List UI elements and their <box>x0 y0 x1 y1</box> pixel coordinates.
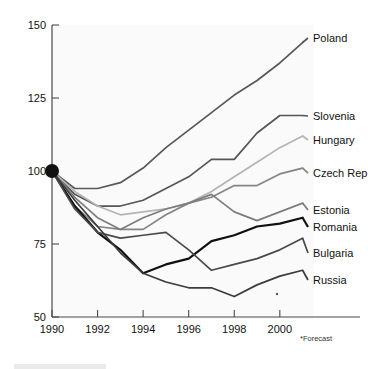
y-tick-label-150: 150 <box>28 19 46 31</box>
line-chart: 5075100125150 199019921994199619982000 P… <box>0 0 368 369</box>
series-label-russia: Russia <box>313 274 348 286</box>
y-tick-label-50: 50 <box>34 311 46 323</box>
series-label-czech-rep: Czech Rep <box>313 167 367 179</box>
series-label-romania: Romania <box>313 221 358 233</box>
y-tick-label-75: 75 <box>34 238 46 250</box>
series-label-slovenia: Slovenia <box>313 110 356 122</box>
series-label-poland: Poland <box>313 32 347 44</box>
series-label-bulgaria: Bulgaria <box>313 247 354 259</box>
forecast-footnote: *Forecast <box>300 334 333 343</box>
x-tick-label-1994: 1994 <box>131 323 155 335</box>
series-label-hungary: Hungary <box>313 134 355 146</box>
figure-root: 5075100125150 199019921994199619982000 P… <box>0 0 368 369</box>
series-label-estonia: Estonia <box>313 204 351 216</box>
origin-marker <box>45 164 59 178</box>
forecast-asterisk-dot <box>276 293 278 295</box>
x-tick-label-1992: 1992 <box>85 323 109 335</box>
x-tick-label-1998: 1998 <box>222 323 246 335</box>
plot-background <box>52 25 314 319</box>
x-tick-label-2000: 2000 <box>268 323 292 335</box>
x-axis-tick-labels: 199019921994199619982000 <box>40 323 292 335</box>
x-tick-label-1996: 1996 <box>176 323 200 335</box>
y-tick-label-100: 100 <box>28 165 46 177</box>
y-tick-label-125: 125 <box>28 92 46 104</box>
figure-caption-bar <box>14 364 106 369</box>
y-axis-tick-labels: 5075100125150 <box>28 19 46 323</box>
x-tick-label-1990: 1990 <box>40 323 64 335</box>
